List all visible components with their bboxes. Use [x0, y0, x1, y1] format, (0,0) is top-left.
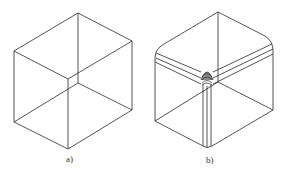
caption-a: a) — [66, 154, 73, 164]
caption-b: b) — [206, 155, 214, 165]
cube-a-wireframe — [14, 13, 132, 149]
corner-blend — [201, 72, 213, 85]
cube-diagrams — [0, 0, 281, 175]
figure: a) b) — [0, 0, 281, 175]
cube-b-filleted — [155, 12, 273, 148]
